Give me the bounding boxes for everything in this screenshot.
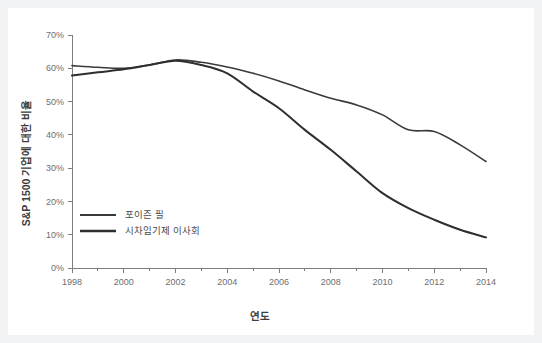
y-tick-label: 50% xyxy=(46,97,64,107)
x-tick-label: 2008 xyxy=(321,277,341,287)
y-tick-label: 60% xyxy=(46,63,64,73)
chart-card: S&P 1500 기업에 대한 비율 0%10%20%30%40%50%60%7… xyxy=(8,8,534,335)
x-tick-label: 2000 xyxy=(114,277,134,287)
x-tick-label: 2006 xyxy=(269,277,289,287)
y-tick-label: 40% xyxy=(46,130,64,140)
x-tick-label: 1998 xyxy=(62,277,82,287)
x-tick-label: 2014 xyxy=(476,277,496,287)
y-tick-label: 70% xyxy=(46,30,64,40)
chart-legend: 포이즌 필시차임기제 이사회 xyxy=(80,209,200,236)
y-tick-marks xyxy=(68,35,72,268)
x-tick-label: 2012 xyxy=(424,277,444,287)
x-axis-title: 연도 xyxy=(250,310,270,322)
x-tick-label: 2004 xyxy=(217,277,237,287)
x-tick-marks xyxy=(72,268,486,273)
y-tick-label: 10% xyxy=(46,230,64,240)
x-tick-label: 2010 xyxy=(372,277,392,287)
y-axis-title: S&P 1500 기업에 대한 비율 xyxy=(20,100,32,226)
y-tick-label: 0% xyxy=(51,263,64,273)
series-line-1 xyxy=(72,60,486,162)
x-tick-label: 2002 xyxy=(165,277,185,287)
x-tick-labels: 199820002002200420062008201020122014 xyxy=(62,277,496,287)
y-tick-labels: 0%10%20%30%40%50%60%70% xyxy=(46,30,64,273)
figure-background: S&P 1500 기업에 대한 비율 0%10%20%30%40%50%60%7… xyxy=(0,0,542,343)
y-tick-label: 20% xyxy=(46,197,64,207)
line-chart: S&P 1500 기업에 대한 비율 0%10%20%30%40%50%60%7… xyxy=(8,8,534,335)
y-tick-label: 30% xyxy=(46,163,64,173)
legend-label-1: 포이즌 필 xyxy=(125,209,164,220)
legend-label-2: 시차임기제 이사회 xyxy=(125,225,200,236)
